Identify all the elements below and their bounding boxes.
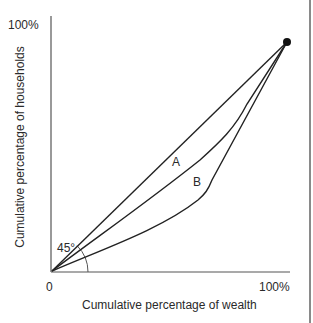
- lorenz-chart: [0, 0, 313, 323]
- x-axis-title: Cumulative percentage of wealth: [82, 298, 257, 312]
- y-axis-title: Cumulative percentage of households: [13, 46, 27, 247]
- x-tick-100: 100%: [259, 280, 290, 294]
- right-border: [309, 0, 311, 323]
- angle-label: 45°: [57, 241, 75, 255]
- equality-line: [52, 42, 287, 271]
- curve-a-label: A: [172, 155, 180, 169]
- endpoint-marker: [283, 38, 291, 46]
- origin-label: 0: [46, 280, 53, 294]
- y-tick-100: 100%: [8, 18, 39, 32]
- curve-b-label: B: [193, 175, 201, 189]
